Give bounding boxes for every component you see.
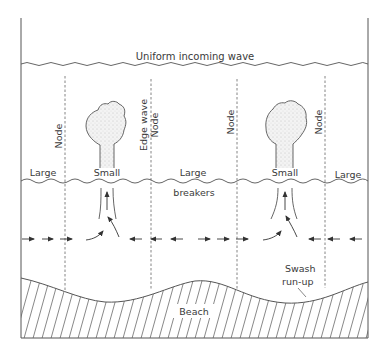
small-breaker-label-right: Small	[272, 167, 298, 178]
rip-plume-left	[86, 101, 126, 168]
beach-label: Beach	[179, 306, 208, 317]
rip-arrow-left-feeder-left	[86, 231, 103, 240]
incoming-wave-label: Uniform incoming wave	[136, 51, 254, 62]
rip-neck-right-side-a	[271, 188, 278, 219]
rip-arrow-right-feeder-right	[286, 216, 297, 237]
breaker-wave-line	[21, 179, 368, 183]
rip-arrow-right-feeder-left	[263, 231, 281, 240]
rip-neck-right-side-b	[292, 188, 297, 219]
large-breaker-label-right: Large	[335, 169, 362, 180]
large-breaker-label-center: Large	[180, 167, 207, 178]
swash-leader-line	[298, 288, 306, 297]
swash-label-line2: run-up	[282, 276, 313, 287]
incoming-wave-line	[21, 63, 368, 66]
node-label-1: Node	[53, 123, 64, 148]
small-breaker-label-left: Small	[94, 167, 120, 178]
beach-shoreline	[21, 278, 368, 303]
rip-arrow-left-feeder-right	[108, 217, 119, 237]
breakers-label: breakers	[173, 187, 214, 198]
rip-neck-left-side-a	[99, 188, 101, 219]
rip-plume-right	[266, 101, 307, 168]
swash-label-line1: Swash	[285, 263, 316, 274]
large-breaker-label-left: Large	[30, 167, 57, 178]
node-label-2: Node	[149, 112, 160, 137]
rip-current-diagram: Uniform incoming wave Node Edge wave Nod…	[0, 0, 389, 357]
node-label-4: Node	[313, 109, 324, 134]
node-label-3: Node	[225, 109, 236, 134]
edge-wave-label: Edge wave	[138, 99, 149, 151]
rip-neck-left-side-b	[113, 188, 116, 219]
